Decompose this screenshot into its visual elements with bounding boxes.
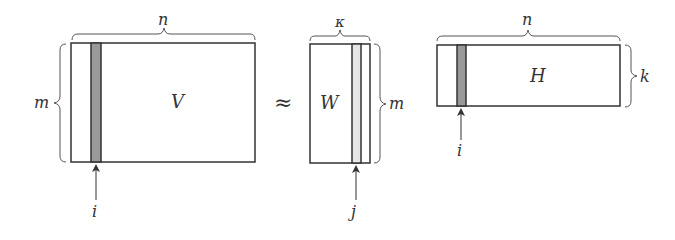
h-matrix-label: H <box>529 65 546 86</box>
v-column-marker: i <box>92 202 97 221</box>
h-column-marker: i <box>457 141 462 160</box>
v-column-stripe <box>91 43 101 162</box>
w-width-label: κ <box>334 13 345 31</box>
v-height-label: m <box>34 93 49 112</box>
v-matrix-label: V <box>171 91 186 112</box>
w-column-marker: j <box>348 202 356 221</box>
h-column-stripe <box>457 45 466 106</box>
matrix-h: n H k i <box>437 10 650 160</box>
brace-h-height <box>625 45 637 107</box>
v-width-label: n <box>158 10 168 29</box>
h-height-label: k <box>640 67 650 86</box>
brace-h-width <box>437 30 620 41</box>
matrix-w: κ W m j <box>310 13 404 221</box>
w-column-stripe <box>352 44 361 163</box>
brace-v-height <box>54 44 66 162</box>
w-matrix-label: W <box>320 92 340 113</box>
matrix-v: n m V i <box>34 10 255 221</box>
brace-v-width <box>72 28 255 40</box>
nmf-diagram: n m V i ≈ κ W m j n H k i <box>0 0 675 240</box>
approx-operator: ≈ <box>274 90 292 115</box>
w-height-label: m <box>389 94 404 113</box>
h-width-label: n <box>522 10 532 29</box>
brace-w-width <box>310 30 370 41</box>
brace-w-height <box>374 44 386 163</box>
